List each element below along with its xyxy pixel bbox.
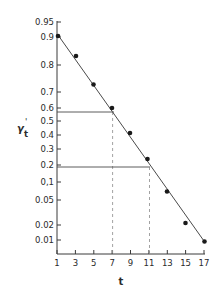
data-point (183, 221, 188, 226)
reference-lines (57, 112, 150, 254)
y-tick-label: 0.02 (35, 220, 54, 230)
y-tick-label: 0.3 (40, 144, 54, 154)
data-point (165, 189, 170, 194)
data-point (91, 82, 96, 87)
x-axis-title: t (119, 276, 124, 287)
y-tick-label: 0.4 (40, 130, 54, 140)
y-tick-labels: 0.95 0.9 0.8 0.7 0.6 0.5 0.4 0.3 0.2 0,1… (35, 17, 54, 245)
y-axis-title-sub: t (24, 129, 28, 139)
y-axis-title: γ ' t (17, 117, 28, 139)
x-tick-label: 1 (54, 258, 59, 268)
x-tick-label: 15 (180, 258, 191, 268)
y-tick-label: 0.7 (40, 87, 54, 97)
y-tick-label: 0.8 (40, 60, 54, 70)
y-tick-label: 0.6 (40, 103, 54, 113)
x-tick-label: 17 (199, 258, 210, 268)
y-tick-label: 0.05 (35, 195, 54, 205)
y-tick-label: 0.01 (35, 235, 54, 245)
data-point (145, 157, 150, 162)
y-tick-marks (57, 22, 61, 240)
data-point (74, 54, 79, 59)
data-point (128, 131, 133, 136)
data-point (110, 106, 115, 111)
probability-plot: 0.95 0.9 0.8 0.7 0.6 0.5 0.4 0.3 0.2 0,1… (0, 0, 220, 297)
fitted-line (58, 35, 204, 241)
x-tick-label: 7 (109, 258, 114, 268)
x-tick-label: 9 (128, 258, 133, 268)
x-tick-labels: 1 3 5 7 9 11 13 15 17 (54, 258, 209, 268)
data-point (202, 239, 207, 244)
y-tick-label: 0.2 (40, 160, 54, 170)
x-tick-label: 11 (143, 258, 154, 268)
y-tick-label: 0.9 (40, 32, 54, 42)
y-tick-label: 0.5 (40, 116, 54, 126)
data-point (56, 34, 61, 39)
y-tick-label: 0.95 (35, 17, 54, 27)
x-tick-label: 13 (162, 258, 173, 268)
x-tick-label: 3 (73, 258, 78, 268)
y-axis-title-sup: ' (25, 117, 27, 127)
y-tick-label: 0,1 (40, 177, 54, 187)
x-tick-label: 5 (91, 258, 96, 268)
x-tick-marks (57, 250, 204, 254)
